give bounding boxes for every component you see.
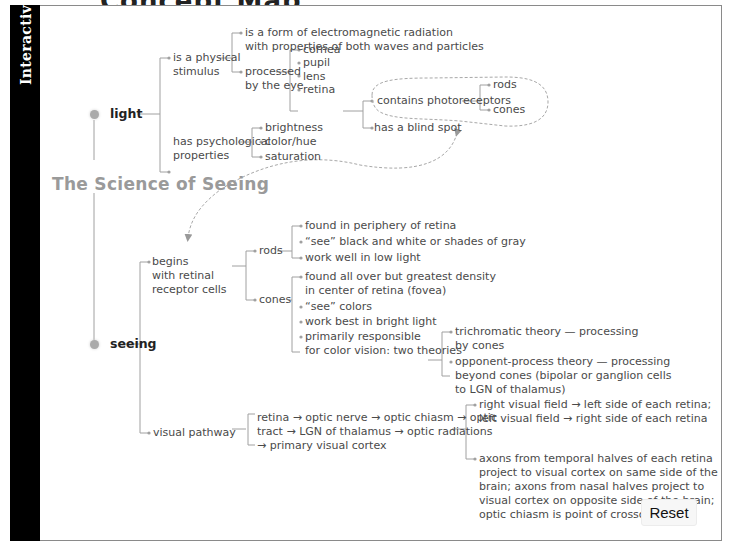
node-pathway-steps[interactable]: retina → optic nerve → optic chiasm → op… — [257, 411, 497, 453]
node-brightness[interactable]: brightness — [265, 121, 323, 135]
node-seeing[interactable]: seeing — [110, 336, 157, 351]
node-retina[interactable]: retina — [303, 83, 335, 97]
reset-button[interactable]: Reset — [641, 499, 697, 526]
node-trichromatic[interactable]: trichromatic theory — processing by cone… — [455, 325, 638, 353]
node-physical-stimulus[interactable]: is a physical stimulus — [173, 51, 241, 79]
diagram-title: The Science of Seeing — [52, 174, 269, 194]
node-lens[interactable]: lens — [303, 70, 326, 84]
light-node-dot[interactable] — [90, 110, 99, 119]
node-processed-by-eye[interactable]: processed by the eye — [245, 65, 304, 93]
node-rods-fact-3[interactable]: work well in low light — [305, 251, 421, 265]
node-color-hue[interactable]: color/hue — [265, 135, 317, 149]
node-pupil[interactable]: pupil — [303, 56, 330, 70]
node-visual-field[interactable]: right visual field → left side of each r… — [479, 398, 711, 426]
node-begins-with[interactable]: begins with retinal receptor cells — [152, 255, 227, 297]
node-visual-pathway[interactable]: visual pathway — [153, 426, 236, 440]
node-rods[interactable]: rods — [259, 244, 283, 258]
node-cornea[interactable]: cornea — [303, 43, 341, 57]
node-cones-fact-3[interactable]: work best in bright light — [305, 315, 437, 329]
node-cones-fact-2[interactable]: “see” colors — [305, 300, 372, 314]
node-blind-spot[interactable]: has a blind spot — [374, 121, 461, 135]
node-cones[interactable]: cones — [259, 293, 291, 307]
node-cones-top[interactable]: cones — [493, 103, 525, 117]
node-rods-fact-2[interactable]: “see” black and white or shades of gray — [305, 235, 526, 249]
node-rods-fact-1[interactable]: found in periphery of retina — [305, 219, 456, 233]
node-cones-fact-1[interactable]: found all over but greatest density in c… — [305, 270, 496, 298]
node-em-radiation[interactable]: is a form of electromagnetic radiation w… — [245, 26, 484, 54]
node-saturation[interactable]: saturation — [265, 150, 321, 164]
node-contains-photoreceptors[interactable]: contains photoreceptors — [377, 94, 511, 108]
node-cones-fact-4[interactable]: primarily responsible for color vision: … — [305, 330, 462, 358]
node-psychological[interactable]: has psychological properties — [173, 135, 271, 163]
node-opponent-process[interactable]: opponent-process theory — processing bey… — [455, 355, 671, 397]
seeing-node-dot[interactable] — [90, 340, 99, 349]
node-rods-top[interactable]: rods — [493, 78, 517, 92]
node-light[interactable]: light — [110, 106, 142, 121]
